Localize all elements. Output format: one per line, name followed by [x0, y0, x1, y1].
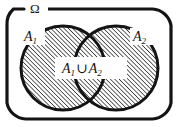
union-label-first-base: A	[62, 61, 71, 76]
union-label-second-subscript: 2	[97, 68, 102, 78]
set-a1-label-base: A	[24, 29, 33, 44]
set-a2-label-subscript: 2	[142, 36, 147, 46]
set-a2-label: A2	[133, 30, 146, 44]
union-operator-symbol: ∪	[75, 61, 89, 76]
set-a1-label: A1	[24, 30, 37, 44]
universe-label: Ω	[30, 2, 40, 15]
set-a2-label-base: A	[133, 29, 142, 44]
set-a1-label-subscript: 1	[33, 36, 38, 46]
venn-diagram-figure: Ω A1 A2 A1∪A2	[0, 0, 178, 127]
union-label-first-subscript: 1	[71, 68, 76, 78]
union-region-label: A1∪A2	[62, 62, 102, 76]
